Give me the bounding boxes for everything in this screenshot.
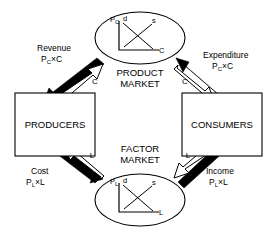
factor-market-label-line1: FACTOR [121,143,159,154]
product-market-label-line2: MARKET [120,78,160,89]
product-market-label-line1: PRODUCT [117,67,164,78]
income-formula: PL×L [209,177,228,188]
consumers-label: CONSUMERS [191,119,253,130]
expenditure-formula: PC×C [212,61,233,72]
factor-supply-label: s [152,178,156,187]
goods-received-label: C [182,77,188,86]
diagram-canvas: PC d s C PL d s L PRODUCERS CONSUMERS PR… [0,0,270,235]
labor-received-label: L [90,151,95,160]
product-chart-x-label: C [159,46,165,55]
goods-supplied-label: C [92,77,98,86]
cost-label: Cost [31,166,49,176]
factor-market-label-line2: MARKET [120,154,160,165]
revenue-label: Revenue [37,43,71,53]
cost-formula: PL×L [26,177,45,188]
labor-supplied-label: L [186,151,191,160]
expenditure-label: Expenditure [203,50,249,60]
revenue-formula: PC×C [41,54,62,65]
circular-flow-diagram: PC d s C PL d s L PRODUCERS CONSUMERS PR… [0,0,270,235]
factor-demand-label: d [123,176,127,185]
income-label: Income [206,166,234,176]
producers-label: PRODUCERS [25,119,86,130]
product-supply-label: s [152,16,156,25]
product-demand-label: d [123,14,127,23]
factor-chart-x-label: L [159,208,163,217]
